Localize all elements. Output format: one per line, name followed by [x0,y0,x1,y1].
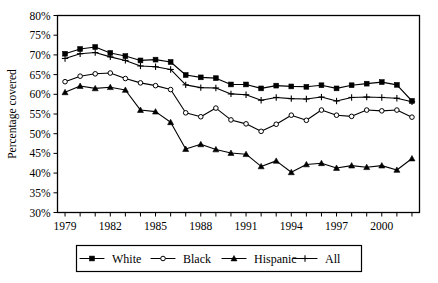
y-axis: 30%35%40%45%50%55%60%65%70%75%80% [29,10,57,219]
data-point-plus [288,95,294,101]
data-point-filled-square [213,76,218,81]
data-point-filled-square [90,256,95,261]
data-point-filled-square [183,73,188,78]
chart-container: 30%35%40%45%50%55%60%65%70%75%80% 197919… [0,0,438,283]
x-tick-label: 1994 [280,220,303,232]
data-point-filled-triangle [273,158,279,163]
y-tick-label: 35% [29,187,51,199]
data-point-filled-square [138,58,143,63]
legend-item-all[interactable]: All [293,252,341,266]
legend-label: All [325,252,341,266]
legend-item-black[interactable]: Black [151,252,211,266]
data-point-plus [92,49,98,55]
data-point-plus [302,255,308,261]
legend-item-hispanic[interactable]: Hispanic [222,252,297,266]
data-point-open-circle [63,79,68,84]
data-point-filled-square [349,83,354,88]
data-point-open-circle [410,115,415,120]
data-point-open-circle [123,76,128,81]
data-point-filled-square [229,82,234,87]
series-layer [62,45,415,175]
data-point-open-circle [161,256,166,261]
legend-label: Black [183,252,211,266]
data-point-filled-square [153,57,158,62]
data-point-plus [273,94,279,100]
data-point-open-circle [274,122,279,127]
x-tick-label: 1991 [235,220,258,232]
data-point-filled-square [289,84,294,89]
x-tick-label: 1988 [189,220,212,232]
data-point-plus [318,94,324,100]
y-tick-label: 50% [29,128,51,140]
x-tick-label: 1979 [54,220,77,232]
data-point-filled-triangle [168,119,174,124]
legend-label: White [112,252,141,266]
data-point-plus [152,64,158,70]
data-point-filled-triangle [409,156,415,161]
data-point-open-circle [395,108,400,113]
legend-item-white[interactable]: White [80,252,141,266]
data-point-open-circle [289,113,294,118]
x-tick-label: 1982 [99,220,122,232]
data-point-open-circle [214,106,219,111]
series-line [65,73,412,131]
data-point-open-circle [304,118,309,123]
data-point-plus [303,96,309,102]
x-tick-label: 2000 [370,220,393,232]
data-point-plus [213,85,219,91]
series-line [65,47,412,101]
data-point-filled-square [334,86,339,91]
data-point-open-circle [379,109,384,114]
data-point-plus [198,84,204,90]
y-tick-label: 45% [29,147,51,159]
data-point-filled-square [319,83,324,88]
line-chart: 30%35%40%45%50%55%60%65%70%75%80% 197919… [0,0,438,283]
data-point-open-circle [153,83,158,88]
data-point-plus [394,95,400,101]
data-point-open-circle [138,81,143,86]
data-point-open-circle [364,108,369,113]
data-point-open-circle [229,118,234,123]
y-tick-label: 40% [29,167,51,179]
data-point-filled-triangle [198,141,204,146]
series-line [65,86,412,172]
data-point-filled-square [274,83,279,88]
data-point-filled-square [198,75,203,80]
data-point-open-circle [168,87,173,92]
data-point-plus [228,91,234,97]
y-tick-label: 70% [29,49,51,61]
y-tick-label: 55% [29,108,51,120]
data-point-plus [364,94,370,100]
data-point-plus [243,91,249,97]
series-black [63,71,415,134]
y-tick-label: 80% [29,10,51,22]
data-point-plus [333,98,339,104]
y-tick-label: 65% [29,69,51,81]
series-all [62,49,415,105]
data-point-plus [137,63,143,69]
y-tick-label: 60% [29,88,51,100]
data-point-filled-square [244,82,249,87]
plot-frame [58,16,420,213]
series-line [65,53,412,102]
data-point-open-circle [349,114,354,119]
data-point-filled-square [379,80,384,85]
y-axis-label: Percentage covered [6,69,19,159]
data-point-open-circle [259,129,264,134]
data-point-open-circle [78,74,83,79]
data-point-open-circle [183,111,188,116]
data-point-filled-triangle [77,83,83,88]
data-point-filled-square [93,45,98,50]
data-point-plus [379,94,385,100]
data-point-plus [348,94,354,100]
data-point-filled-square [304,84,309,89]
data-point-open-circle [198,114,203,119]
x-tick-label: 1997 [325,220,348,232]
data-point-filled-square [168,60,173,65]
legend-label: Hispanic [254,252,297,266]
x-axis: 19791982198519881991199419972000 [54,213,412,232]
data-point-open-circle [319,108,324,113]
data-point-open-circle [244,122,249,127]
y-tick-label: 75% [29,29,51,41]
data-point-open-circle [93,72,98,77]
